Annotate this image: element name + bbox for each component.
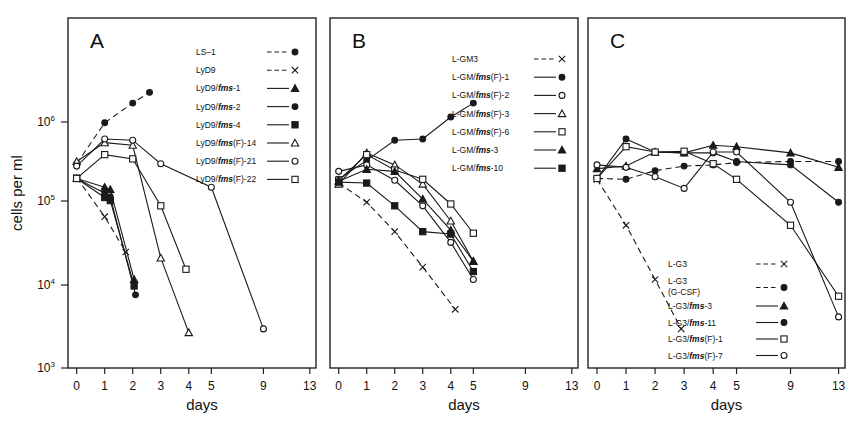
- data-point-open-square: [787, 222, 793, 228]
- x-tick-label-C-1: 1: [623, 379, 630, 393]
- data-point-filled-square: [292, 122, 298, 128]
- legend-item-A-4: LyD9/fms-4: [196, 120, 298, 130]
- legend-item-B-6: L-GM/fms-10: [452, 163, 565, 173]
- series-C-3: [594, 136, 841, 205]
- data-point-open-circle: [448, 239, 454, 245]
- data-point-filled-square: [470, 268, 476, 274]
- panel-letter-C: C: [610, 29, 625, 52]
- data-point-filled-square: [420, 229, 426, 235]
- data-point-open-circle: [836, 314, 842, 320]
- growth-curve-figure: A012345913days103104105106cells per mlB0…: [0, 0, 861, 429]
- data-point-x: [652, 276, 658, 282]
- series-line-L-G3 (G-CSF): [597, 161, 839, 179]
- legend-label-L-G3 (G-CSF): L-G3: [668, 276, 687, 286]
- x-tick-label-C-4: 4: [710, 379, 717, 393]
- series-A-5: [73, 139, 192, 336]
- y-tick-label-1000: 103: [37, 360, 55, 375]
- legend-label-L-GM/fms-3: L-GM/fms-3: [452, 145, 499, 155]
- data-point-x: [292, 67, 298, 73]
- series-B-2: [336, 162, 477, 283]
- data-point-open-circle: [470, 277, 476, 283]
- data-point-filled-circle: [623, 136, 629, 142]
- legend-label-L-G3: L-G3: [668, 259, 687, 269]
- legend-label-L-GM/fms(F)-2: L-GM/fms(F)-2: [452, 90, 509, 100]
- data-point-open-circle: [260, 326, 266, 332]
- data-point-filled-square: [559, 165, 565, 171]
- data-point-x: [392, 228, 398, 234]
- panel-A: A012345913days103104105106cells per ml: [8, 18, 317, 413]
- data-point-x: [781, 261, 787, 267]
- data-point-open-square: [292, 176, 298, 182]
- panel-letter-B: B: [352, 29, 366, 52]
- data-point-filled-circle: [130, 100, 136, 106]
- series-line-L-G3/fms-3: [597, 145, 839, 168]
- x-tick-label-A-5: 5: [208, 379, 215, 393]
- data-point-open-circle: [158, 161, 164, 167]
- panel-letter-A: A: [90, 29, 104, 52]
- data-point-open-circle: [74, 163, 80, 169]
- legend-label-L-GM3: L-GM3: [452, 54, 478, 64]
- data-point-open-circle: [420, 203, 426, 209]
- x-tick-label-B-5: 5: [470, 379, 477, 393]
- data-point-filled-circle: [836, 199, 842, 205]
- data-point-open-circle: [208, 184, 214, 190]
- data-point-open-square: [559, 129, 565, 135]
- data-point-filled-circle: [292, 104, 298, 110]
- data-point-filled-circle: [420, 136, 426, 142]
- legend-item-B-5: L-GM/fms-3: [452, 145, 566, 155]
- data-point-open-square: [710, 161, 716, 167]
- data-point-filled-triangle: [780, 302, 787, 309]
- data-point-open-circle: [652, 174, 658, 180]
- x-axis-label-B: days: [448, 396, 480, 413]
- legend-panel-B: L-GM3L-GM/fms(F)-1L-GM/fms(F)-2L-GM/fms(…: [452, 54, 566, 173]
- x-tick-label-B-9: 9: [522, 379, 529, 393]
- legend-item-A-3: LyD9/fms-2: [196, 102, 298, 112]
- data-point-open-square: [470, 230, 476, 236]
- data-point-open-square: [448, 201, 454, 207]
- x-tick-label-B-3: 3: [419, 379, 426, 393]
- y-tick-label-10000: 104: [37, 277, 55, 292]
- legend-item-B-3: L-GM/fms(F)-3: [452, 109, 566, 119]
- data-point-filled-circle: [788, 162, 794, 168]
- x-tick-label-C-9: 9: [787, 379, 794, 393]
- data-point-x: [559, 56, 565, 62]
- data-point-open-circle: [102, 136, 108, 142]
- x-tick-label-A-4: 4: [185, 379, 192, 393]
- data-point-open-square: [781, 336, 787, 342]
- series-line-L-GM/fms-10: [339, 182, 474, 271]
- legend-panel-C: L-G3L-G3(G-CSF)L-G3/fms-3L-G3/fms-11L-G3…: [668, 259, 788, 361]
- x-tick-label-B-2: 2: [391, 379, 398, 393]
- x-axis-label-C: days: [711, 396, 743, 413]
- data-point-filled-circle: [781, 320, 787, 326]
- legend-label-sub-L-G3 (G-CSF): (G-CSF): [668, 287, 700, 297]
- x-tick-label-C-3: 3: [681, 379, 688, 393]
- legend-item-C-2: L-G3/fms-3: [668, 301, 788, 311]
- legend-item-A-1: LyD9: [196, 65, 298, 75]
- series-line-LyD9/fms(F)-22: [77, 155, 186, 270]
- data-point-filled-circle: [681, 163, 687, 169]
- data-point-x: [364, 199, 370, 205]
- legend-item-B-4: L-GM/fms(F)-6: [452, 127, 565, 137]
- data-point-open-square: [130, 156, 136, 162]
- legend-item-C-5: L-G3/fms(F)-7: [668, 351, 787, 361]
- data-point-open-circle: [681, 185, 687, 191]
- legend-label-L-G3/fms(F)-1: L-G3/fms(F)-1: [668, 334, 723, 344]
- data-point-open-circle: [336, 168, 342, 174]
- series-A-7: [74, 152, 189, 273]
- data-point-open-square: [733, 176, 739, 182]
- data-point-filled-square: [364, 180, 370, 186]
- legend-label-LyD9/fms-1: LyD9/fms-1: [196, 83, 241, 93]
- data-point-filled-circle: [559, 74, 565, 80]
- data-point-open-square: [652, 149, 658, 155]
- series-line-L-G3/fms(F)-7: [597, 152, 839, 317]
- data-point-open-triangle: [157, 254, 164, 261]
- legend-item-B-2: L-GM/fms(F)-2: [452, 90, 565, 100]
- series-C-4: [594, 144, 842, 300]
- data-point-x: [420, 264, 426, 270]
- data-point-open-circle: [130, 137, 136, 143]
- legend-label-LyD9/fms(F)-14: LyD9/fms(F)-14: [196, 138, 256, 148]
- legend-label-L-G3/fms(F)-7: L-G3/fms(F)-7: [668, 351, 723, 361]
- data-point-x: [102, 214, 108, 220]
- legend-item-C-4: L-G3/fms(F)-1: [668, 334, 787, 344]
- data-point-x: [452, 306, 458, 312]
